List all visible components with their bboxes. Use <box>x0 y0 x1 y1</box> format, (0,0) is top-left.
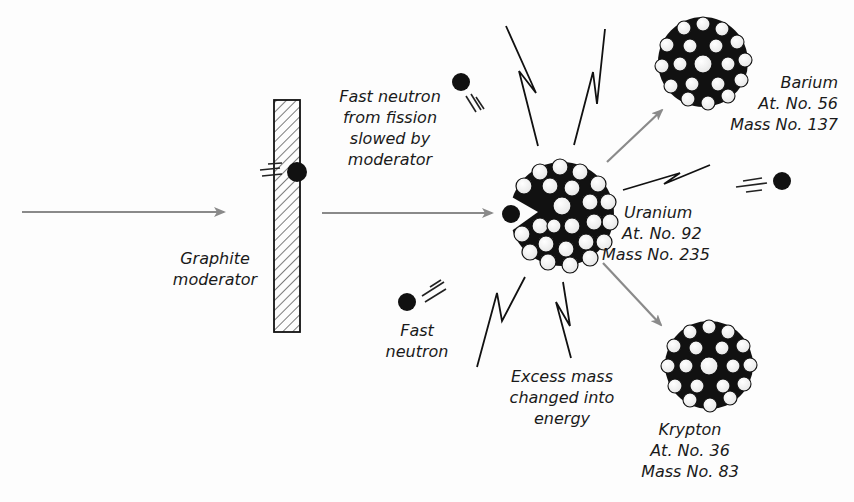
nucleus-name: Barium <box>700 72 838 93</box>
fission-neutron-label: Fast neutron from fission slowed by mode… <box>330 86 450 170</box>
label-line: Fast neutron <box>330 86 450 107</box>
label-line: moderator <box>330 149 450 170</box>
graphite-moderator-slab <box>260 100 307 332</box>
mass-number: Mass No. 235 <box>602 244 737 265</box>
fission-neutron-right <box>736 172 791 192</box>
atomic-number: At. No. 56 <box>700 93 838 114</box>
mass-number: Mass No. 83 <box>630 461 750 482</box>
uranium-nucleus <box>502 159 618 273</box>
fission-neutron-top <box>452 73 484 112</box>
label-line: from fission <box>330 107 450 128</box>
label-line: energy <box>502 408 622 429</box>
krypton-label: Krypton At. No. 36 Mass No. 83 <box>630 419 750 482</box>
captured-neutron <box>502 205 520 223</box>
nucleus-name: Uranium <box>602 202 737 223</box>
label-line: Graphite <box>160 248 270 269</box>
label-line: Fast <box>382 320 452 341</box>
label-line: moderator <box>160 269 270 290</box>
slowed-neutron-particle <box>287 162 307 182</box>
label-line: neutron <box>382 341 452 362</box>
uranium-label: Uranium At. No. 92 Mass No. 235 <box>602 202 737 265</box>
atomic-number: At. No. 36 <box>630 440 750 461</box>
fission-diagram: Fast neutron from fission slowed by mode… <box>0 0 854 502</box>
label-line: changed into <box>502 387 622 408</box>
mass-number: Mass No. 137 <box>700 114 838 135</box>
nucleus-name: Krypton <box>630 419 750 440</box>
excess-mass-label: Excess mass changed into energy <box>502 366 622 429</box>
fast-neutron-label: Fast neutron <box>382 320 452 362</box>
label-line: Excess mass <box>502 366 622 387</box>
atomic-number: At. No. 92 <box>602 223 737 244</box>
label-line: slowed by <box>330 128 450 149</box>
graphite-moderator-label: Graphite moderator <box>160 248 270 290</box>
fast-neutron-particle <box>398 280 446 311</box>
krypton-nucleus <box>661 320 757 412</box>
barium-label: Barium At. No. 56 Mass No. 137 <box>700 72 838 135</box>
